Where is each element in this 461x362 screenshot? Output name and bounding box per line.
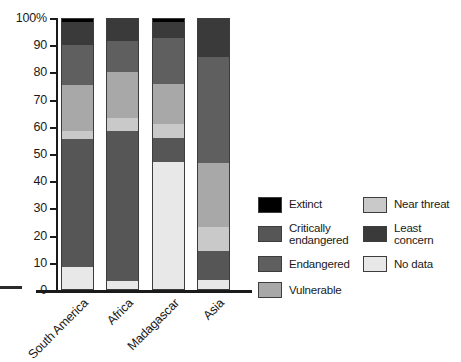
bar-asia[interactable] (197, 18, 230, 290)
legend-label-near-threat: Near threat (394, 198, 449, 210)
legend-item-no-data[interactable]: No data (363, 256, 458, 273)
segment-critically-endangered[interactable] (198, 251, 229, 279)
segment-near-threat[interactable] (153, 124, 184, 138)
legend-swatch-near-threat (363, 197, 387, 213)
segment-vulnerable[interactable] (153, 84, 184, 125)
scan-edge-mark (0, 286, 22, 289)
legend-label-endangered: Endangered (289, 258, 350, 270)
y-tick-50 (50, 154, 56, 156)
legend-swatch-critically-endangered (258, 226, 282, 242)
x-axis-label-asia: Asia (200, 296, 227, 323)
y-tick-label-20: 20 (33, 229, 47, 243)
segment-no-data[interactable] (107, 281, 138, 289)
segment-endangered[interactable] (153, 38, 184, 84)
segment-no-data[interactable] (198, 280, 229, 289)
segment-least-concern[interactable] (107, 19, 138, 41)
segment-critically-endangered[interactable] (62, 139, 93, 267)
legend-column-right: Near threatLeast concernNo data (363, 196, 458, 282)
plot-area: 0102030405060708090100% (56, 18, 232, 290)
legend-swatch-extinct (258, 197, 282, 213)
legend-item-extinct[interactable]: Extinct (258, 196, 350, 213)
segment-endangered[interactable] (198, 57, 229, 164)
legend-swatch-no-data (363, 256, 387, 272)
y-tick-label-30: 30 (33, 201, 47, 215)
y-tick-60 (50, 127, 56, 129)
legend-column-left: ExtinctCriticallyendangeredEndangeredVul… (258, 196, 350, 308)
legend-item-vulnerable[interactable]: Vulnerable (258, 282, 350, 299)
legend-item-endangered[interactable]: Endangered (258, 256, 350, 273)
y-tick-label-40: 40 (33, 174, 47, 188)
y-tick-0 (50, 290, 56, 292)
y-tick-40 (50, 181, 56, 183)
segment-no-data[interactable] (62, 267, 93, 289)
y-tick-label-60: 60 (33, 120, 47, 134)
y-tick-label-0: 0 (40, 283, 47, 297)
x-axis-label-south-america: South America (25, 296, 91, 362)
segment-least-concern[interactable] (198, 19, 229, 57)
segment-vulnerable[interactable] (107, 72, 138, 118)
segment-least-concern[interactable] (153, 22, 184, 38)
segment-no-data[interactable] (153, 162, 184, 289)
y-tick-label-70: 70 (33, 93, 47, 107)
legend-label-critically-endangered: Criticallyendangered (289, 222, 348, 247)
y-tick-100 (50, 18, 56, 20)
y-tick-20 (50, 236, 56, 238)
segment-least-concern[interactable] (62, 22, 93, 45)
segment-near-threat[interactable] (107, 118, 138, 132)
bar-south-america[interactable] (61, 18, 94, 290)
segment-vulnerable[interactable] (62, 85, 93, 131)
legend-item-least-concern[interactable]: Least concern (363, 222, 458, 247)
legend-swatch-least-concern (363, 226, 387, 242)
y-tick-10 (50, 263, 56, 265)
x-axis-line (36, 290, 252, 293)
y-tick-90 (50, 45, 56, 47)
segment-near-threat[interactable] (198, 227, 229, 251)
y-tick-label-90: 90 (33, 38, 47, 52)
segment-critically-endangered[interactable] (107, 131, 138, 281)
segment-endangered[interactable] (107, 41, 138, 72)
bar-africa[interactable] (106, 18, 139, 290)
segment-near-threat[interactable] (62, 131, 93, 139)
y-tick-label-10: 10 (33, 256, 47, 270)
y-tick-70 (50, 100, 56, 102)
segment-critically-endangered[interactable] (153, 138, 184, 162)
chart-canvas: 0102030405060708090100% South AmericaAfr… (0, 0, 461, 362)
legend-label-vulnerable: Vulnerable (289, 284, 342, 296)
y-tick-30 (50, 208, 56, 210)
legend-label-extinct: Extinct (289, 198, 322, 210)
y-tick-label-100: 100% (16, 11, 47, 25)
bar-madagascar[interactable] (152, 18, 185, 290)
y-tick-label-80: 80 (33, 65, 47, 79)
y-tick-80 (50, 72, 56, 74)
y-tick-label-50: 50 (33, 147, 47, 161)
legend-swatch-endangered (258, 256, 282, 272)
legend-label-no-data: No data (394, 258, 433, 270)
legend-label-least-concern: Least concern (394, 222, 458, 247)
segment-endangered[interactable] (62, 45, 93, 86)
segment-vulnerable[interactable] (198, 163, 229, 226)
legend-item-critically-endangered[interactable]: Criticallyendangered (258, 222, 350, 247)
legend-swatch-vulnerable (258, 282, 282, 298)
x-axis-label-africa: Africa (104, 296, 136, 328)
legend-item-near-threat[interactable]: Near threat (363, 196, 458, 213)
